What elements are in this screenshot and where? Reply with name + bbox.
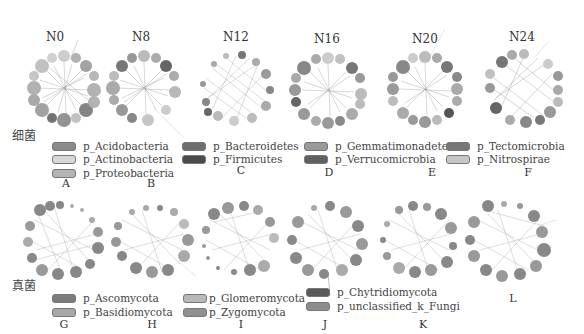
network-title-n8: N8 bbox=[121, 30, 161, 44]
network-diagram-h bbox=[110, 200, 194, 280]
network-diagram-j bbox=[286, 200, 370, 280]
network-diagram-e bbox=[386, 50, 464, 128]
network-diagram-a bbox=[28, 50, 100, 126]
legend-label: p_Verrucomicrobia bbox=[335, 153, 436, 165]
panel-label-g: G bbox=[54, 318, 74, 331]
network-title-n24: N24 bbox=[502, 30, 542, 44]
legend-swatch bbox=[304, 155, 328, 164]
legend-swatch bbox=[183, 308, 207, 317]
legend-swatch bbox=[182, 155, 206, 164]
legend-label: p_Basidiomycota bbox=[83, 306, 173, 318]
panel-label-c: C bbox=[231, 164, 251, 177]
legend-swatch bbox=[182, 142, 206, 151]
network-title-n0: N0 bbox=[35, 30, 75, 44]
bacteria-group-label: 细菌 bbox=[12, 126, 36, 143]
legend-item-gemmatimonadetes: p_Gemmatimonadetes bbox=[304, 140, 453, 152]
legend-swatch bbox=[446, 142, 470, 151]
legend-label: p_Tectomicrobia bbox=[477, 140, 565, 152]
legend-item-acidobacteria: p_Acidobacteria bbox=[52, 140, 169, 152]
legend-swatch bbox=[52, 142, 76, 151]
legend-label: p_Bacteroidetes bbox=[213, 140, 299, 152]
network-title-n12: N12 bbox=[216, 30, 256, 44]
panel-label-h: H bbox=[142, 318, 162, 331]
legend-item-zygomycota: p_Zygomycota bbox=[183, 306, 286, 318]
panel-label-l: L bbox=[503, 292, 523, 305]
legend-swatch bbox=[306, 302, 330, 311]
network-diagram-d bbox=[288, 52, 368, 128]
legend-item-bacteroidetes: p_Bacteroidetes bbox=[182, 140, 299, 152]
network-diagram-f bbox=[484, 48, 564, 128]
legend-swatch bbox=[306, 288, 330, 297]
legend-swatch bbox=[183, 294, 207, 303]
panel-label-d: D bbox=[319, 166, 339, 179]
legend-label: p_Gemmatimonadetes bbox=[335, 140, 453, 152]
network-title-n16: N16 bbox=[307, 32, 347, 46]
legend-label: p_Actinobacteria bbox=[83, 153, 173, 165]
legend-item-nitrospirae: p_Nitrospirae bbox=[446, 153, 550, 165]
legend-swatch bbox=[446, 155, 470, 164]
legend-label: p_Glomeromycota bbox=[209, 292, 305, 304]
panel-label-f: F bbox=[518, 166, 538, 179]
legend-item-chytridiomycota: p_Chytridiomycota bbox=[306, 286, 437, 298]
legend-item-unclassified-fungi: p_unclassified_k_Fungi bbox=[306, 300, 460, 312]
panel-label-i: I bbox=[231, 318, 251, 331]
network-diagram-g bbox=[22, 200, 106, 280]
panel-label-k: K bbox=[413, 318, 433, 331]
legend-item-actinobacteria: p_Actinobacteria bbox=[52, 153, 173, 165]
legend-label: p_Zygomycota bbox=[209, 306, 286, 318]
network-diagram-l bbox=[464, 198, 556, 282]
legend-item-basidiomycota: p_Basidiomycota bbox=[52, 306, 173, 318]
legend-label: p_Ascomycota bbox=[83, 292, 159, 304]
legend-swatch bbox=[52, 294, 76, 303]
legend-swatch bbox=[52, 308, 76, 317]
legend-item-verrucomicrobia: p_Verrucomicrobia bbox=[304, 153, 436, 165]
legend-label: p_Acidobacteria bbox=[83, 140, 169, 152]
network-diagram-i bbox=[198, 200, 282, 280]
legend-label: p_Nitrospirae bbox=[477, 153, 550, 165]
legend-item-ascomycota: p_Ascomycota bbox=[52, 292, 159, 304]
legend-swatch bbox=[304, 142, 328, 151]
legend-item-tectomicrobia: p_Tectomicrobia bbox=[446, 140, 565, 152]
network-diagram-k bbox=[376, 200, 462, 280]
legend-swatch bbox=[52, 155, 76, 164]
legend-label: p_unclassified_k_Fungi bbox=[337, 300, 460, 312]
legend-label: p_Chytridiomycota bbox=[337, 286, 437, 298]
legend-item-glomeromycota: p_Glomeromycota bbox=[183, 292, 305, 304]
panel-label-a: A bbox=[56, 177, 76, 190]
network-title-n20: N20 bbox=[405, 32, 445, 46]
panel-label-j: J bbox=[315, 318, 335, 331]
network-diagram-b bbox=[106, 50, 182, 126]
panel-label-b: B bbox=[141, 177, 161, 190]
panel-label-e: E bbox=[422, 166, 442, 179]
network-diagram-c bbox=[196, 50, 276, 126]
